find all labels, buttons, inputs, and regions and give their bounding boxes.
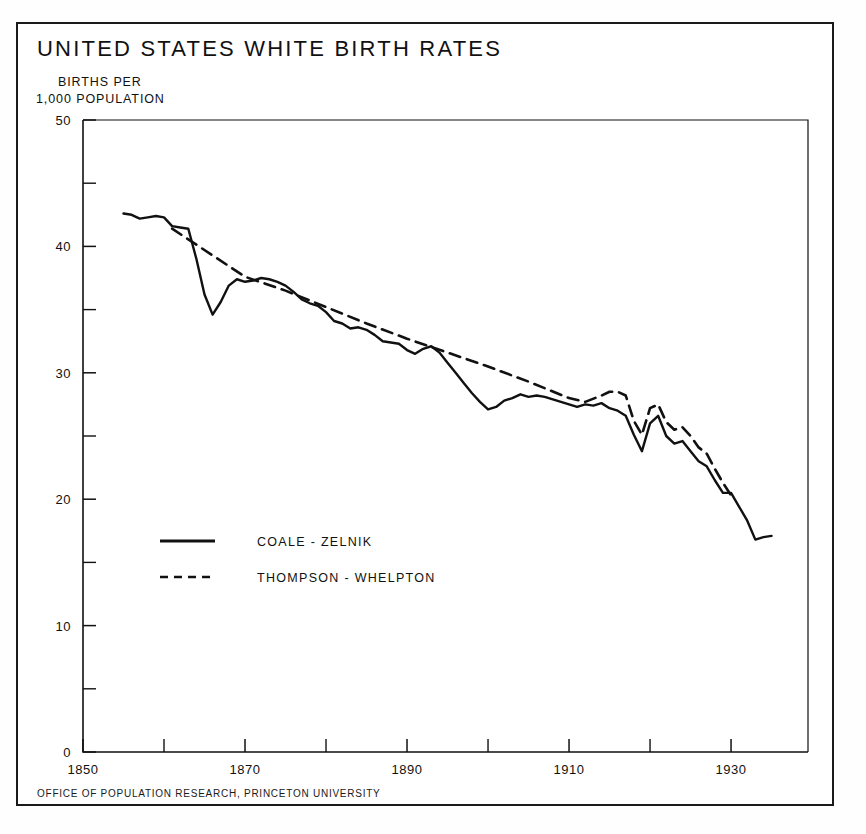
y-axis-tick-label: 40 [56, 239, 71, 254]
x-axis-tick-label: 1870 [230, 762, 261, 777]
plot-box-edge [83, 120, 808, 752]
y-axis-tick-label: 50 [56, 113, 71, 128]
y-axis-tick-label: 30 [56, 366, 71, 381]
x-axis-tick-label: 1890 [392, 762, 423, 777]
x-axis-tick-label: 1910 [554, 762, 585, 777]
axis-lines [83, 120, 808, 752]
y-axis-tick-label: 10 [56, 619, 71, 634]
chart-canvas: 0102030405018501870189019101930COALE - Z… [0, 0, 866, 834]
y-axis-tick-label: 0 [63, 745, 71, 760]
data-series-line [172, 229, 731, 496]
legend-label: THOMPSON - WHELPTON [257, 571, 436, 585]
x-axis-tick-label: 1850 [68, 762, 99, 777]
source-note: OFFICE OF POPULATION RESEARCH, PRINCETON… [37, 788, 380, 799]
legend-label: COALE - ZELNIK [257, 535, 372, 549]
x-axis-tick-label: 1930 [716, 762, 747, 777]
y-axis-tick-label: 20 [56, 492, 71, 507]
figure-root: UNITED STATES WHITE BIRTH RATES BIRTHS P… [0, 0, 866, 834]
data-series-line [124, 214, 772, 540]
